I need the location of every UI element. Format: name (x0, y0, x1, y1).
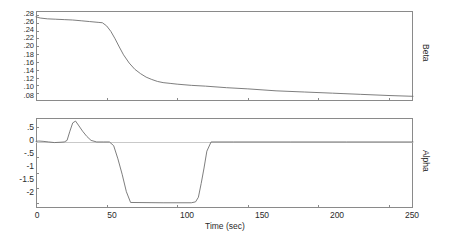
beta-line-chart (0, 0, 458, 110)
xtick-3: 150 (252, 211, 272, 220)
xtick-1: 50 (102, 211, 122, 220)
xtick-0: 0 (27, 211, 47, 220)
xtick-4: 200 (327, 211, 347, 220)
alpha-axis-title: Alpha (421, 150, 431, 172)
figure-root: .28 .26 .24 .22 .20 .18 .16 .14 .12 .10 … (0, 0, 458, 232)
xtick-2: 100 (177, 211, 197, 220)
beta-panel: .28 .26 .24 .22 .20 .18 .16 .14 .12 .10 … (0, 0, 458, 110)
beta-axis-title: Beta (421, 44, 431, 62)
xtick-5: 250 (402, 211, 422, 220)
x-axis-title: Time (sec) (205, 221, 245, 231)
alpha-panel: .5 0 -.5 -1 -1.5 -2 0 50 100 150 200 250… (0, 110, 458, 232)
alpha-line-chart (0, 110, 458, 232)
